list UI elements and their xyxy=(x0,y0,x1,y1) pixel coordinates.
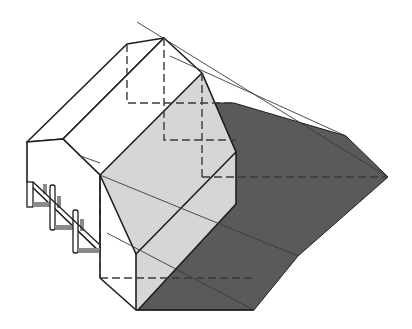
diagram-canvas: Shadow projection of a gabled house with… xyxy=(0,0,412,329)
house-shadow-drawing xyxy=(0,0,412,329)
